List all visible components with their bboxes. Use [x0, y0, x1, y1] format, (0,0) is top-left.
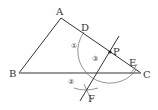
label-F: F — [88, 93, 95, 104]
step-label-1: ① — [71, 42, 77, 50]
step-label-2: ② — [68, 78, 74, 86]
label-E: E — [129, 57, 136, 68]
label-B: B — [9, 68, 16, 79]
point-P — [108, 50, 111, 53]
label-P: P — [113, 46, 120, 57]
side-AB — [19, 18, 61, 73]
label-A: A — [55, 6, 64, 17]
step-label-3: ③ — [92, 55, 98, 63]
label-D: D — [81, 22, 89, 33]
arc-step-1 — [78, 32, 136, 83]
label-C: C — [143, 69, 151, 80]
geometry-figure: A B C D E P F ① ② ③ — [0, 0, 158, 110]
